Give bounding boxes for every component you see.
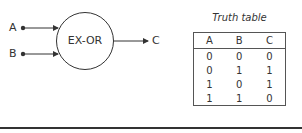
truth-table-title: Truth table	[193, 12, 286, 23]
header-c: C	[254, 33, 286, 49]
cell: 0	[225, 49, 254, 64]
cell: 0	[254, 49, 286, 64]
cell: 1	[254, 63, 286, 77]
header-a: A	[194, 33, 225, 49]
cell: 0	[225, 77, 254, 91]
input-a-label: A	[9, 22, 17, 33]
cell: 0	[194, 63, 225, 77]
cell: 1	[194, 77, 225, 91]
cell: 0	[254, 91, 286, 106]
cell: 1	[225, 63, 254, 77]
cell: 1	[194, 91, 225, 106]
cell: 0	[194, 49, 225, 64]
ex-or-diagram: A B EX-OR C Truth table A B C 0 0 0 0 1 …	[0, 0, 302, 133]
header-b: B	[225, 33, 254, 49]
table-row: 0 0 0	[194, 49, 286, 64]
output-c-label: C	[152, 35, 160, 46]
truth-table-header-row: A B C	[194, 33, 286, 49]
table-row: 0 1 1	[194, 63, 286, 77]
table-row: 1 0 1	[194, 77, 286, 91]
bottom-rule-divider	[0, 127, 302, 129]
gate-label: EX-OR	[57, 35, 113, 46]
table-row: 1 1 0	[194, 91, 286, 106]
input-b-label: B	[9, 48, 17, 59]
cell: 1	[254, 77, 286, 91]
truth-table: A B C 0 0 0 0 1 1 1 0 1 1 1	[193, 32, 286, 106]
cell: 1	[225, 91, 254, 106]
